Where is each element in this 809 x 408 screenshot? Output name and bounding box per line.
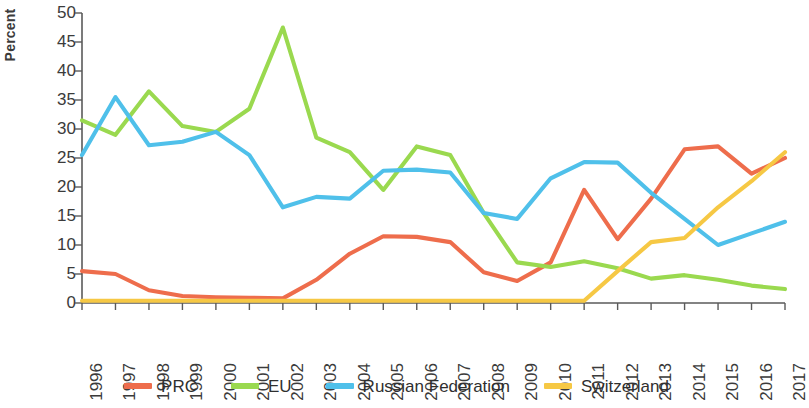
legend-color-swatch xyxy=(124,383,152,389)
legend-color-swatch xyxy=(326,383,354,389)
plot-area xyxy=(82,13,785,303)
y-axis-tick-label: 40 xyxy=(42,62,76,79)
series-line-russian-federation xyxy=(82,97,785,245)
y-axis-tick-label: 0 xyxy=(42,294,76,311)
plot-svg xyxy=(82,13,785,303)
y-axis-tick-label: 30 xyxy=(42,120,76,137)
legend-item[interactable]: Switzerland xyxy=(544,378,669,395)
legend-label: PRC xyxy=(161,378,197,395)
y-axis-tick-label: 45 xyxy=(42,33,76,50)
legend-label: EU xyxy=(268,378,292,395)
y-axis-tick-label: 10 xyxy=(42,236,76,253)
y-axis-tick-label: 20 xyxy=(42,178,76,195)
y-axis-title: Percent xyxy=(2,0,18,95)
legend-item[interactable]: Russian Federation xyxy=(326,378,510,395)
y-axis-tick-labels: 50454035302520151050 xyxy=(24,0,76,408)
y-axis-tick-label: 25 xyxy=(42,149,76,166)
legend-item[interactable]: PRC xyxy=(124,378,197,395)
y-axis-tick-label: 35 xyxy=(42,91,76,108)
legend-item[interactable]: EU xyxy=(231,378,292,395)
chart-legend: PRCEURussian FederationSwitzerland xyxy=(0,372,793,400)
y-axis-tick-label: 15 xyxy=(42,207,76,224)
series-line-switzerland xyxy=(82,152,785,300)
y-axis-tick-label: 50 xyxy=(42,4,76,21)
legend-color-swatch xyxy=(544,383,572,389)
x-axis-tick-labels: 1996199719981999200020012002200320042005… xyxy=(82,307,785,367)
legend-color-swatch xyxy=(231,383,259,389)
legend-label: Switzerland xyxy=(581,378,669,395)
legend-label: Russian Federation xyxy=(363,378,510,395)
y-axis-tick-label: 5 xyxy=(42,265,76,282)
x-axis-tick-label: 2017 xyxy=(791,363,808,401)
